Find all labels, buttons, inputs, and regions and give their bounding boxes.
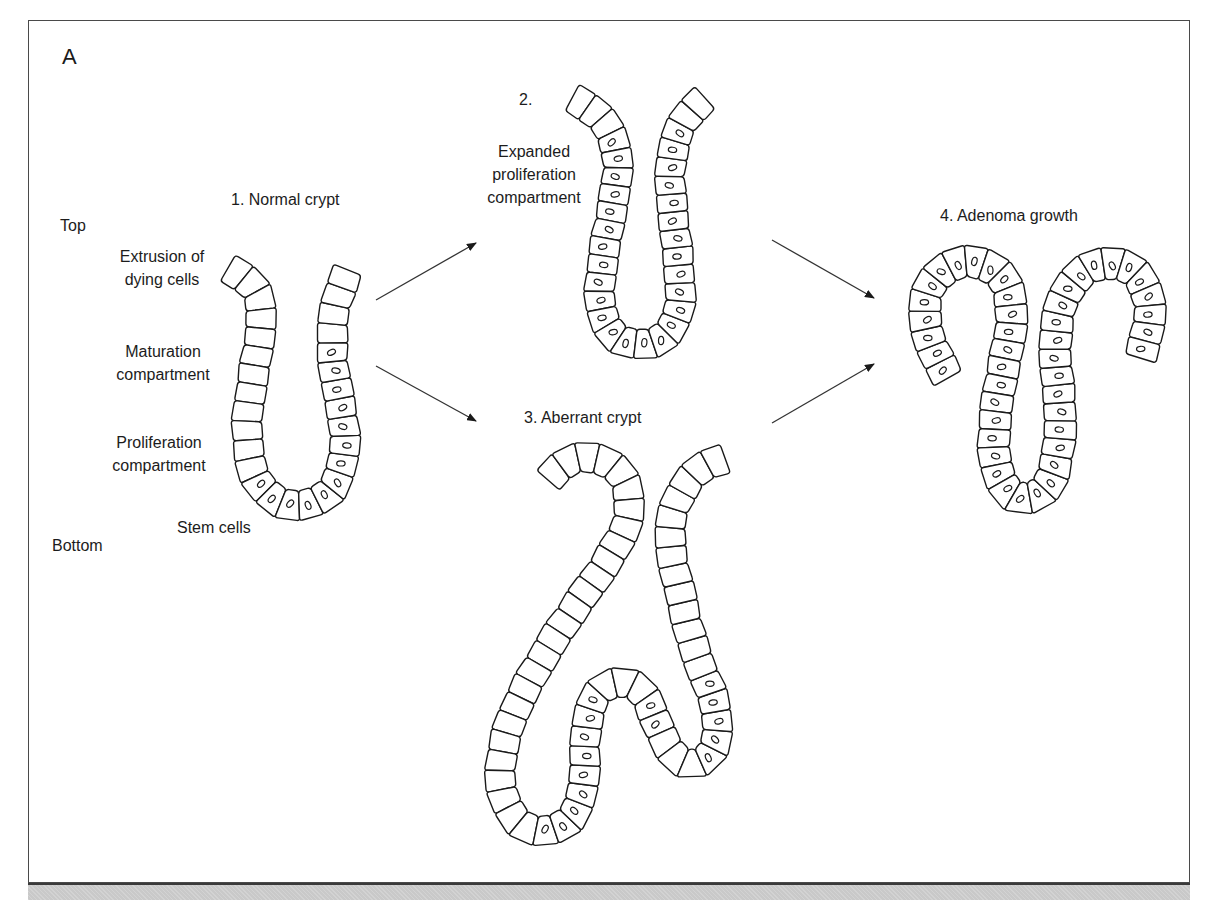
arrow-normal-to-aberrant	[376, 366, 476, 421]
panel-letter: A	[62, 44, 77, 70]
normal-crypt-drawing	[221, 256, 360, 520]
stage-2-subtitle-line: Expanded	[487, 140, 580, 163]
expanded-crypt-drawing	[566, 85, 713, 358]
bottom-label: Bottom	[52, 534, 103, 557]
epithelial-cell	[246, 308, 276, 329]
epithelial-cell	[977, 429, 1010, 448]
extrusion-label-line: Extrusion of	[120, 245, 204, 268]
epithelial-cell	[657, 193, 688, 213]
extrusion-label-line: dying cells	[120, 268, 204, 291]
aberrant-crypt-drawing	[485, 443, 733, 846]
maturation-label-line: Maturation	[116, 340, 209, 363]
epithelial-cell	[570, 746, 601, 766]
stage-1-title: 1. Normal crypt	[231, 188, 339, 211]
proliferation-label-line: Proliferation	[112, 431, 205, 454]
stage-2-subtitle: Expanded proliferation compartment	[487, 140, 580, 209]
epithelial-cell	[665, 283, 696, 303]
epithelial-cell	[318, 360, 350, 382]
proliferation-label: Proliferation compartment	[112, 431, 205, 477]
arrow-aberrant-to-adenoma	[772, 364, 874, 423]
epithelial-cell	[318, 343, 348, 363]
epithelial-cell	[231, 421, 262, 441]
maturation-label-line: compartment	[116, 363, 209, 386]
stage-2-subtitle-line: compartment	[487, 186, 580, 209]
extrusion-label: Extrusion of dying cells	[120, 245, 204, 291]
epithelial-cell	[318, 323, 348, 343]
epithelial-cell	[1039, 349, 1071, 368]
epithelial-cell	[655, 176, 686, 195]
adenoma-drawing	[909, 245, 1166, 513]
epithelial-cell	[1040, 366, 1074, 386]
epithelial-cell	[584, 272, 616, 291]
stage-2-subtitle-line: proliferation	[487, 163, 580, 186]
arrow-expanded-to-adenoma	[772, 240, 874, 298]
epithelial-cell	[232, 401, 264, 422]
epithelial-cell	[569, 765, 600, 786]
stem-cells-label: Stem cells	[177, 516, 251, 539]
proliferation-label-line: compartment	[112, 454, 205, 477]
arrow-normal-to-expanded	[376, 243, 476, 300]
epithelial-cell	[329, 435, 360, 456]
epithelial-cell	[1044, 402, 1077, 421]
epithelial-cell	[979, 410, 1011, 430]
maturation-label: Maturation compartment	[116, 340, 209, 386]
epithelial-cell	[995, 304, 1028, 324]
stage-4-title: 4. Adenoma growth	[940, 204, 1078, 227]
epithelial-cell	[664, 264, 695, 283]
epithelial-cell	[655, 527, 686, 548]
stage-3-title: 3. Aberrant crypt	[524, 406, 641, 429]
epithelial-cell	[1044, 421, 1076, 440]
stage-2-number: 2.	[519, 88, 532, 111]
top-label: Top	[60, 214, 86, 237]
